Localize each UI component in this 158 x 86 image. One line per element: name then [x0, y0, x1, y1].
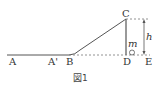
label-height: h: [146, 31, 152, 42]
track-incline: [69, 19, 126, 55]
label-c: C: [122, 8, 130, 19]
label-mass: m: [128, 38, 137, 49]
figure-caption: 図1: [73, 73, 88, 83]
arrow-head-down-icon: [143, 51, 146, 55]
mass-ball-icon: [130, 50, 135, 55]
label-e: E: [145, 56, 152, 67]
label-a-prime: A': [47, 56, 58, 67]
label-b: B: [66, 56, 73, 67]
track-diagram: A A' B C D E m h 図1: [0, 0, 158, 86]
label-d: D: [123, 56, 131, 67]
label-a: A: [8, 56, 17, 67]
arrow-head-up-icon: [143, 19, 146, 23]
